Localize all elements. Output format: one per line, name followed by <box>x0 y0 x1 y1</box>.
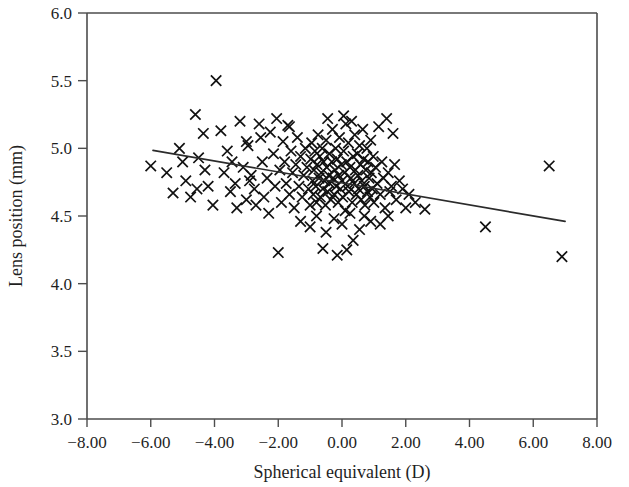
data-point-marker <box>359 211 369 221</box>
data-point-marker <box>356 195 366 205</box>
data-point-marker <box>256 132 266 142</box>
data-point-marker <box>185 192 195 202</box>
data-point-marker <box>305 222 315 232</box>
y-tick-label: 4.5 <box>51 207 72 226</box>
y-tick-label: 3.0 <box>51 410 72 429</box>
data-point-marker <box>146 161 156 171</box>
y-axis-tick-labels: 3.03.54.04.55.05.56.0 <box>51 4 72 429</box>
data-point-marker <box>192 184 202 194</box>
x-tick-label: 6.00 <box>518 433 548 452</box>
data-point-marker <box>235 116 245 126</box>
data-point-marker <box>208 200 218 210</box>
data-point-marker <box>200 165 210 175</box>
data-point-marker <box>410 197 420 207</box>
x-axis-title: Spherical equivalent (D) <box>254 462 431 483</box>
data-point-marker <box>241 195 251 205</box>
data-point-marker <box>321 227 331 237</box>
data-point-marker <box>544 161 554 171</box>
data-point-marker <box>203 181 213 191</box>
y-axis-title: Lens position (mm) <box>6 145 27 287</box>
x-tick-label: 2.00 <box>391 433 421 452</box>
data-point-marker <box>251 200 261 210</box>
data-point-marker <box>278 136 288 146</box>
data-point-marker <box>286 146 296 156</box>
data-point-marker <box>177 157 187 167</box>
y-tick-label: 4.0 <box>51 275 72 294</box>
data-point-marker <box>330 143 340 153</box>
x-axis-tick-labels: −8.00−6.00−4.00−2.000.002.004.006.008.00 <box>67 433 612 452</box>
data-point-marker <box>265 127 275 137</box>
data-point-marker <box>322 113 332 123</box>
data-point-marker <box>273 247 283 257</box>
data-point-marker <box>211 75 221 85</box>
data-point-marker <box>342 245 352 255</box>
data-point-marker <box>420 204 430 214</box>
x-tick-label: −4.00 <box>195 433 234 452</box>
regression-line <box>153 150 565 221</box>
data-point-marker <box>161 167 171 177</box>
data-point-marker <box>219 167 229 177</box>
data-point-marker <box>232 203 242 213</box>
y-axis-ticks <box>78 13 87 419</box>
data-point-marker <box>168 188 178 198</box>
data-point-marker <box>381 113 391 123</box>
data-point-marker <box>292 132 302 142</box>
data-point-marker <box>227 157 237 167</box>
x-axis-ticks <box>87 419 597 427</box>
data-point-marker <box>388 128 398 138</box>
data-point-marker <box>383 211 393 221</box>
data-points <box>146 75 568 261</box>
x-tick-label: −6.00 <box>131 433 170 452</box>
data-point-marker <box>314 151 324 161</box>
data-point-marker <box>380 203 390 213</box>
data-point-marker <box>401 203 411 213</box>
data-point-marker <box>369 197 379 207</box>
data-point-marker <box>345 208 355 218</box>
y-tick-label: 5.0 <box>51 139 72 158</box>
data-point-marker <box>270 181 280 191</box>
data-point-marker <box>268 149 278 159</box>
chart-canvas: −8.00−6.00−4.00−2.000.002.004.006.008.00… <box>0 0 629 487</box>
data-point-marker <box>334 132 344 142</box>
data-point-marker <box>348 235 358 245</box>
scatter-plot-figure: −8.00−6.00−4.00−2.000.002.004.006.008.00… <box>0 0 629 487</box>
data-point-marker <box>281 178 291 188</box>
data-point-marker <box>311 211 321 221</box>
y-tick-label: 6.0 <box>51 4 72 23</box>
data-point-marker <box>480 222 490 232</box>
plot-frame <box>87 13 597 419</box>
x-tick-label: 8.00 <box>582 433 612 452</box>
data-point-marker <box>222 146 232 156</box>
data-point-marker <box>198 128 208 138</box>
data-point-marker <box>383 167 393 177</box>
data-point-marker <box>289 203 299 213</box>
regression-fit-line <box>153 150 565 221</box>
data-point-marker <box>354 224 364 234</box>
data-point-marker <box>271 113 281 123</box>
data-point-marker <box>257 157 267 167</box>
y-tick-label: 5.5 <box>51 72 72 91</box>
x-tick-label: 0.00 <box>327 433 357 452</box>
data-point-marker <box>294 181 304 191</box>
data-point-marker <box>263 208 273 218</box>
data-point-marker <box>389 159 399 169</box>
data-point-marker <box>190 109 200 119</box>
data-point-marker <box>216 126 226 136</box>
data-point-marker <box>181 176 191 186</box>
data-point-marker <box>284 189 294 199</box>
x-tick-label: −2.00 <box>259 433 298 452</box>
data-point-marker <box>391 195 401 205</box>
data-point-marker <box>254 119 264 129</box>
x-tick-label: 4.00 <box>455 433 485 452</box>
data-point-marker <box>557 251 567 261</box>
data-point-marker <box>295 216 305 226</box>
y-tick-label: 3.5 <box>51 342 72 361</box>
data-point-marker <box>287 167 297 177</box>
data-point-marker <box>174 143 184 153</box>
data-point-marker <box>332 250 342 260</box>
data-point-marker <box>307 138 317 148</box>
x-tick-label: −8.00 <box>67 433 106 452</box>
data-point-marker <box>318 243 328 253</box>
